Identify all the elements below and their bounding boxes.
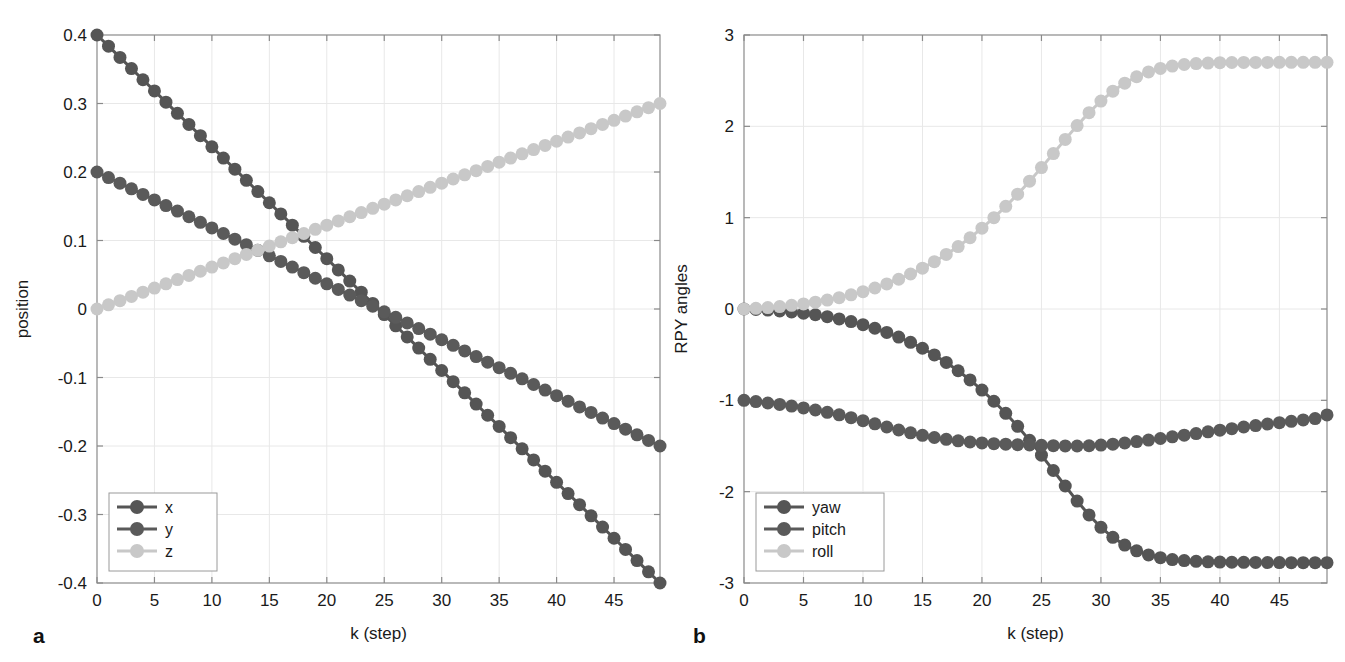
- data-point-marker: [516, 147, 529, 160]
- data-point-marker: [102, 298, 115, 311]
- data-point-marker: [1059, 439, 1072, 452]
- data-point-marker: [833, 312, 846, 325]
- figure-container: 051015202530354045-0.4-0.3-0.2-0.100.10.…: [0, 0, 1345, 662]
- panel-a: 051015202530354045-0.4-0.3-0.2-0.100.10.…: [0, 0, 680, 662]
- x-tick-label: 5: [150, 591, 159, 610]
- data-point-marker: [845, 315, 858, 328]
- data-point-marker: [1202, 555, 1215, 568]
- data-point-marker: [205, 261, 218, 274]
- data-point-marker: [1106, 438, 1119, 451]
- data-point-marker: [619, 543, 632, 556]
- data-point-marker: [1202, 57, 1215, 70]
- legend-label-y: y: [165, 521, 173, 538]
- data-point-marker: [401, 189, 414, 202]
- data-point-marker: [1023, 439, 1036, 452]
- data-point-marker: [1273, 556, 1286, 569]
- series-roll: [738, 56, 1334, 316]
- data-point-marker: [182, 269, 195, 282]
- data-point-marker: [1154, 62, 1167, 75]
- data-point-marker: [585, 122, 598, 135]
- data-point-marker: [1190, 555, 1203, 568]
- data-point-marker: [504, 152, 517, 165]
- data-point-marker: [136, 73, 149, 86]
- data-point-marker: [194, 129, 207, 142]
- data-point-marker: [1249, 419, 1262, 432]
- data-point-marker: [916, 342, 929, 355]
- data-point-marker: [527, 378, 540, 391]
- data-point-marker: [1071, 119, 1084, 132]
- legend-marker-x: [130, 500, 144, 514]
- panel-letter-b: b: [693, 624, 706, 648]
- data-point-marker: [550, 476, 563, 489]
- data-point-marker: [1011, 188, 1024, 201]
- data-point-marker: [205, 140, 218, 153]
- data-point-marker: [171, 107, 184, 120]
- data-point-marker: [952, 434, 965, 447]
- data-point-marker: [964, 435, 977, 448]
- data-point-marker: [1297, 56, 1310, 69]
- data-point-marker: [856, 318, 869, 331]
- data-point-marker: [964, 373, 977, 386]
- legend-marker-pitch: [777, 522, 791, 536]
- data-point-marker: [809, 308, 822, 321]
- data-point-marker: [1118, 436, 1131, 449]
- data-point-marker: [868, 417, 881, 430]
- data-point-marker: [320, 219, 333, 232]
- data-point-marker: [631, 554, 644, 567]
- data-point-marker: [1083, 508, 1096, 521]
- data-point-marker: [1142, 65, 1155, 78]
- data-point-marker: [470, 164, 483, 177]
- data-point-marker: [1154, 551, 1167, 564]
- data-point-marker: [481, 409, 494, 422]
- data-point-marker: [332, 214, 345, 227]
- data-point-marker: [228, 252, 241, 265]
- data-point-marker: [1106, 531, 1119, 544]
- data-point-marker: [148, 193, 161, 206]
- data-point-marker: [761, 396, 774, 409]
- data-point-marker: [343, 275, 356, 288]
- data-point-marker: [987, 395, 1000, 408]
- data-point-marker: [1083, 439, 1096, 452]
- data-point-marker: [309, 272, 322, 285]
- data-point-marker: [263, 240, 276, 253]
- data-point-marker: [1285, 556, 1298, 569]
- data-point-marker: [608, 417, 621, 430]
- data-point-marker: [113, 294, 126, 307]
- data-point-marker: [1249, 556, 1262, 569]
- data-point-marker: [539, 139, 552, 152]
- legend-label-yaw: yaw: [812, 499, 841, 516]
- data-point-marker: [148, 282, 161, 295]
- data-point-marker: [1166, 60, 1179, 73]
- data-point-marker: [1213, 556, 1226, 569]
- y-tick-label: -2: [719, 483, 734, 502]
- data-point-marker: [975, 384, 988, 397]
- data-point-marker: [1190, 427, 1203, 440]
- data-point-marker: [217, 256, 230, 269]
- data-point-marker: [274, 207, 287, 220]
- y-tick-label: 3: [725, 26, 734, 45]
- data-point-marker: [320, 252, 333, 265]
- data-point-marker: [809, 296, 822, 309]
- data-point-marker: [1166, 553, 1179, 566]
- data-point-marker: [1011, 420, 1024, 433]
- data-point-marker: [619, 110, 632, 123]
- x-tick-label: 10: [854, 591, 873, 610]
- data-point-marker: [1059, 133, 1072, 146]
- data-point-marker: [749, 395, 762, 408]
- data-point-marker: [1011, 438, 1024, 451]
- data-point-marker: [91, 29, 104, 42]
- x-tick-label: 40: [1210, 591, 1229, 610]
- data-point-marker: [332, 263, 345, 276]
- data-point-marker: [916, 262, 929, 275]
- data-point-marker: [493, 361, 506, 374]
- data-point-marker: [91, 166, 104, 179]
- data-point-marker: [1130, 435, 1143, 448]
- data-point-marker: [366, 300, 379, 313]
- data-point-marker: [1261, 56, 1274, 69]
- data-point-marker: [424, 181, 437, 194]
- data-point-marker: [1178, 554, 1191, 567]
- data-point-marker: [251, 244, 264, 257]
- data-point-marker: [217, 227, 230, 240]
- data-point-marker: [975, 222, 988, 235]
- data-point-marker: [366, 202, 379, 215]
